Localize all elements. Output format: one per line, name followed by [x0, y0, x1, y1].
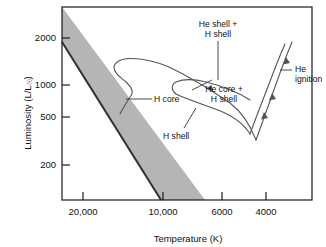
annotation-he-core-h-shell-line1: He core +: [178, 84, 270, 94]
annotation-he-ignition-line1: He: [295, 64, 322, 74]
x-tick-label-10000: 10,000: [123, 206, 203, 217]
y-axis-title-end: ): [22, 76, 33, 79]
y-axis-title: Luminosity (L/L☉): [17, 53, 35, 173]
y-axis-ticks: [62, 38, 70, 165]
arrowhead-rgb: [269, 93, 276, 101]
hr-diagram-figure: 2000 1000 500 200 20,000 10,000 6000 400…: [0, 0, 326, 247]
annotation-he-ignition: He ignition: [295, 64, 322, 85]
annotation-he-core-h-shell: He core + H shell: [178, 84, 270, 105]
annotation-h-shell-line1: H shell: [163, 131, 189, 141]
x-tick-label-20000: 20,000: [43, 206, 123, 217]
annotation-he-ignition-line2: ignition: [295, 74, 322, 84]
annotation-h-shell: H shell: [163, 131, 189, 141]
y-axis-title-main: Luminosity (L/L: [22, 85, 33, 149]
leader-h-shell: [184, 108, 196, 128]
arrowhead-agb: [261, 112, 268, 120]
annotation-he-shell-h-shell: He shell + H shell: [168, 19, 268, 40]
annotation-he-core-h-shell-line2: H shell: [178, 94, 270, 104]
y-axis-title-subscript: ☉: [26, 79, 33, 85]
x-axis-title-text: Temperature (K): [154, 233, 223, 244]
annotation-h-core: H core: [154, 94, 179, 104]
annotation-he-shell-h-shell-line1: He shell +: [168, 19, 268, 29]
y-tick-label-2000: 2000: [20, 32, 56, 43]
annotation-he-shell-h-shell-line2: H shell: [168, 29, 268, 39]
x-axis-title: Temperature (K): [63, 228, 313, 246]
annotation-h-core-line1: H core: [154, 94, 179, 104]
x-tick-label-4000: 4000: [236, 206, 296, 217]
